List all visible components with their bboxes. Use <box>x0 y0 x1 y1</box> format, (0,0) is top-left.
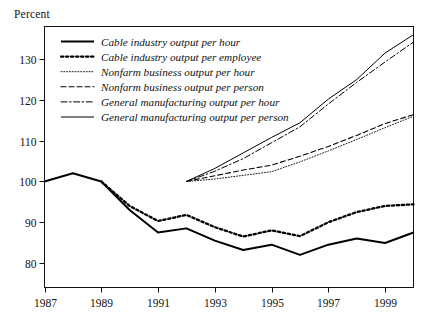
x-axis-label-group: 1987198919911993199519971999 <box>34 297 397 309</box>
x-axis-tick-label: 1991 <box>147 297 170 309</box>
chart-figure: Percent 8090100110120130 198719891991199… <box>0 0 428 330</box>
x-axis-tick-group <box>46 288 386 293</box>
legend-label: General manufacturing output per person <box>101 111 289 123</box>
y-axis-tick-label: 100 <box>19 176 37 188</box>
legend-label: Nonfarm business output per hour <box>100 66 255 78</box>
series-line <box>101 181 413 236</box>
y-axis-tick-group <box>40 60 45 264</box>
y-axis-tick-label: 120 <box>19 95 37 107</box>
legend-label: Nonfarm business output per person <box>100 81 264 93</box>
y-axis-tick-label: 80 <box>25 258 37 270</box>
x-axis-tick-label: 1995 <box>261 297 284 309</box>
y-axis-tick-label: 90 <box>25 217 37 229</box>
y-axis-label-group: 8090100110120130 <box>19 54 37 270</box>
legend-label: General manufacturing output per hour <box>101 96 280 108</box>
line-chart-plot: 8090100110120130 19871989199119931995199… <box>0 0 428 330</box>
y-axis-tick-label: 130 <box>19 54 37 66</box>
chart-legend: Cable industry output per hourCable indu… <box>61 36 289 124</box>
y-axis-unit-label: Percent <box>14 8 50 20</box>
x-axis-tick-label: 1997 <box>317 297 340 309</box>
legend-label: Cable industry output per hour <box>101 36 241 48</box>
series-line <box>45 173 414 255</box>
x-axis-tick-label: 1993 <box>204 297 227 309</box>
x-axis-tick-label: 1999 <box>374 297 397 309</box>
y-axis-tick-label: 110 <box>20 136 37 148</box>
x-axis-tick-label: 1987 <box>34 297 57 309</box>
series-line <box>186 115 413 182</box>
legend-label: Cable industry output per employee <box>101 51 261 63</box>
x-axis-tick-label: 1989 <box>90 297 113 309</box>
